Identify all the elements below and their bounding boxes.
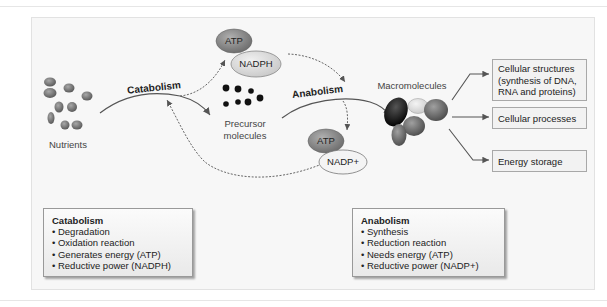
output-structures-line2: (synthesis of DNA, bbox=[498, 75, 581, 87]
anabolism-summary-item: Reductive power (NADP+) bbox=[361, 260, 496, 271]
anabolism-summary-item: Reduction reaction bbox=[361, 237, 496, 248]
catabolism-summary-item: Oxidation reaction bbox=[52, 237, 184, 248]
catabolism-arrow bbox=[100, 94, 210, 115]
catabolism-to-atp-arrow bbox=[180, 60, 225, 96]
nutrient-particles bbox=[44, 78, 93, 130]
output-cellular-processes: Cellular processes bbox=[492, 107, 587, 129]
catabolism-summary-title: Catabolism bbox=[52, 215, 184, 226]
nadp-label: NADP+ bbox=[319, 156, 367, 167]
output-structures-line3: RNA and proteins) bbox=[498, 86, 581, 98]
atp-bottom-label: ATP bbox=[308, 135, 344, 146]
nadph-label: NADPH bbox=[231, 58, 281, 69]
macromolecule-shapes bbox=[380, 94, 448, 146]
anabolism-summary-item: Synthesis bbox=[361, 226, 496, 237]
macromolecules-label: Macromolecules bbox=[372, 80, 452, 92]
anabolism-summary-box: Anabolism Synthesis Reduction reaction N… bbox=[352, 208, 505, 277]
catabolism-summary-item: Degradation bbox=[52, 226, 184, 237]
catabolism-summary-item: Reductive power (NADPH) bbox=[52, 260, 184, 271]
catabolism-summary-box: Catabolism Degradation Oxidation reactio… bbox=[43, 208, 193, 277]
precursor-label-line1: Precursor bbox=[215, 118, 275, 130]
arrow-to-storage bbox=[449, 129, 489, 160]
precursor-dots bbox=[223, 85, 264, 107]
catabolism-summary-item: Generates energy (ATP) bbox=[52, 249, 184, 260]
atp-top-label: ATP bbox=[216, 35, 252, 46]
arrow-to-structures bbox=[452, 74, 489, 100]
bottom-divider bbox=[0, 300, 607, 301]
anabolism-summary-title: Anabolism bbox=[361, 215, 496, 226]
output-structures-line1: Cellular structures bbox=[498, 63, 581, 75]
anabolism-summary-item: Needs energy (ATP) bbox=[361, 249, 496, 260]
anabolism-to-atp-arrow bbox=[343, 101, 348, 130]
output-cellular-structures: Cellular structures (synthesis of DNA, R… bbox=[492, 59, 587, 101]
anabolism-arrow bbox=[282, 99, 390, 118]
nutrients-label: Nutrients bbox=[38, 139, 98, 151]
output-energy-storage: Energy storage bbox=[492, 150, 587, 172]
nadph-to-anabolism-arrow bbox=[288, 54, 345, 82]
precursor-label: Precursor molecules bbox=[215, 118, 275, 142]
precursor-label-line2: molecules bbox=[215, 130, 275, 142]
